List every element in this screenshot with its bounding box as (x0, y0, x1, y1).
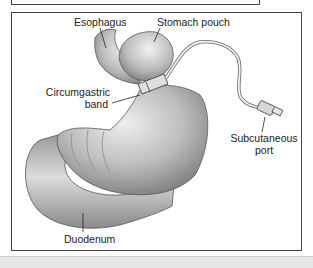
label-subcutaneous: Subcutaneous (220, 132, 308, 144)
bottom-divider-band (0, 256, 313, 268)
label-port: port (220, 144, 308, 156)
label-stomach-pouch: Stomach pouch (157, 16, 230, 28)
label-esophagus: Esophagus (74, 16, 127, 28)
subcutaneous-port-shape (257, 100, 283, 116)
label-band: band (44, 98, 108, 110)
label-duodenum: Duodenum (64, 233, 115, 245)
label-circumgastric: Circumgastric (44, 86, 110, 98)
stomach-pouch-shape (119, 32, 173, 81)
